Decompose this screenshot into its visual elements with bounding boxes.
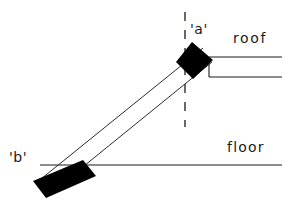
ladder-foot-black-segment [33, 160, 96, 198]
point-a-label: 'a' [190, 22, 208, 36]
ladder-rail-upper-line [36, 48, 203, 183]
ladder-roof-diagram: roof floor 'a' 'b' [0, 0, 291, 214]
point-b-label: 'b' [9, 150, 27, 164]
roof-label: roof [233, 31, 267, 45]
ladder-top-black-segment [176, 42, 213, 79]
floor-label: floor [227, 140, 265, 154]
